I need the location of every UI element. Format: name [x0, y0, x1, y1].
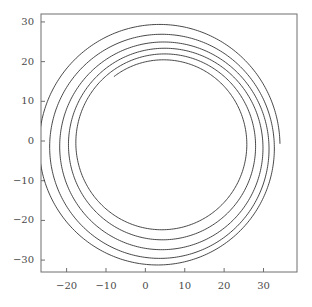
y-tick-label: 10: [21, 96, 34, 106]
x-tick-label: 20: [218, 281, 231, 291]
y-tick-label: 20: [21, 57, 34, 67]
y-tick-label: 30: [21, 17, 34, 27]
plot-area: [0, 0, 312, 307]
x-tick-label: 30: [257, 281, 270, 291]
plot-background: [41, 14, 297, 272]
y-tick-label: −10: [13, 176, 34, 186]
y-tick-label: −30: [13, 255, 34, 265]
x-tick-label: 0: [142, 281, 148, 291]
x-tick-label: −20: [56, 281, 77, 291]
chart-figure: −30−20−100102030 −20−100102030: [0, 0, 312, 307]
y-tick-label: −20: [13, 215, 34, 225]
x-tick-label: 10: [178, 281, 191, 291]
y-tick-label: 0: [28, 136, 34, 146]
x-tick-label: −10: [95, 281, 116, 291]
